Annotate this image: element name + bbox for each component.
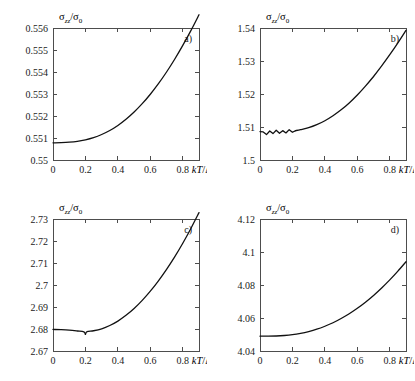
- y-tick-label: 4.04: [238, 346, 256, 357]
- y-tick-label: 1.53: [238, 56, 256, 67]
- y-tick-label: 2.71: [31, 258, 49, 269]
- y-tick-label: 0.555: [26, 45, 49, 56]
- x-tick-label: 0.4: [319, 164, 332, 175]
- y-tick-label: 2.68: [31, 324, 49, 335]
- y-tick-label: 4.08: [238, 280, 256, 291]
- data-curve: [53, 329, 85, 334]
- chart-panel-d: σzz/σ000.20.40.60.84.044.064.084.14.12kT…: [207, 191, 414, 381]
- y-tick-label: 4.1: [243, 247, 256, 258]
- x-axis-label: kT/Δ: [192, 164, 207, 175]
- x-tick-label: 0.8: [177, 355, 190, 366]
- data-curve: [260, 130, 296, 135]
- y-tick-label: 1.51: [238, 122, 256, 133]
- plot-frame: [53, 28, 199, 160]
- x-tick-label: 0.8: [384, 355, 397, 366]
- y-tick-label: 2.67: [31, 346, 49, 357]
- y-tick-label: 0.556: [26, 23, 49, 34]
- y-axis-label: σzz/σ0: [59, 202, 83, 216]
- y-tick-label: 4.12: [238, 214, 256, 225]
- data-curve-tail: [85, 213, 199, 335]
- x-axis-label: kT/Δ: [399, 355, 414, 366]
- chart-svg-c: σzz/σ000.20.40.60.82.672.682.692.72.712.…: [0, 191, 207, 381]
- x-axis-label: kT/Δ: [192, 355, 207, 366]
- panel-letter: d): [391, 224, 399, 236]
- y-tick-label: 2.69: [31, 302, 49, 313]
- x-tick-label: 0.6: [144, 355, 157, 366]
- data-curve-smooth: [296, 30, 406, 130]
- x-tick-label: 0.2: [79, 355, 92, 366]
- chart-panel-c: σzz/σ000.20.40.60.82.672.682.692.72.712.…: [0, 191, 207, 381]
- y-tick-label: 0.552: [26, 111, 49, 122]
- y-tick-label: 1.54: [238, 23, 256, 34]
- y-tick-label: 0.551: [26, 133, 49, 144]
- x-tick-label: 0.8: [384, 164, 397, 175]
- chart-svg-a: σzz/σ000.20.40.60.80.550.5510.5520.5530.…: [0, 0, 207, 190]
- x-tick-label: 0: [51, 164, 56, 175]
- y-tick-label: 0.554: [26, 67, 49, 78]
- data-curve: [260, 262, 406, 336]
- x-tick-label: 0.6: [144, 164, 157, 175]
- figure-panel-grid: σzz/σ000.20.40.60.80.550.5510.5520.5530.…: [0, 0, 415, 381]
- x-tick-label: 0.6: [351, 355, 364, 366]
- y-axis-label: σzz/σ0: [59, 11, 83, 25]
- chart-panel-a: σzz/σ000.20.40.60.80.550.5510.5520.5530.…: [0, 0, 207, 190]
- x-tick-label: 0.4: [112, 355, 125, 366]
- y-tick-label: 1.5: [243, 155, 256, 166]
- x-tick-label: 0: [258, 164, 263, 175]
- x-tick-label: 0.2: [79, 164, 92, 175]
- y-tick-label: 2.72: [31, 236, 49, 247]
- y-tick-label: 0.55: [31, 155, 49, 166]
- chart-svg-d: σzz/σ000.20.40.60.84.044.064.084.14.12kT…: [207, 191, 414, 381]
- chart-svg-b: σzz/σ000.20.40.60.81.51.511.521.531.54kT…: [207, 0, 414, 190]
- chart-panel-b: σzz/σ000.20.40.60.81.51.511.521.531.54kT…: [207, 0, 414, 190]
- x-tick-label: 0: [258, 355, 263, 366]
- x-axis-label: kT/Δ: [399, 164, 414, 175]
- y-tick-label: 2.7: [36, 280, 49, 291]
- y-tick-label: 1.52: [238, 89, 256, 100]
- y-tick-label: 4.06: [238, 313, 256, 324]
- x-tick-label: 0: [51, 355, 56, 366]
- data-curve: [53, 15, 199, 143]
- y-tick-label: 0.553: [26, 89, 49, 100]
- y-axis-label: σzz/σ0: [266, 11, 290, 25]
- x-tick-label: 0.4: [319, 355, 332, 366]
- x-tick-label: 0.2: [286, 355, 299, 366]
- x-tick-label: 0.2: [286, 164, 299, 175]
- x-tick-label: 0.8: [177, 164, 190, 175]
- x-tick-label: 0.6: [351, 164, 364, 175]
- plot-frame: [260, 28, 406, 160]
- y-axis-label: σzz/σ0: [266, 202, 290, 216]
- x-tick-label: 0.4: [112, 164, 125, 175]
- y-tick-label: 2.73: [31, 214, 49, 225]
